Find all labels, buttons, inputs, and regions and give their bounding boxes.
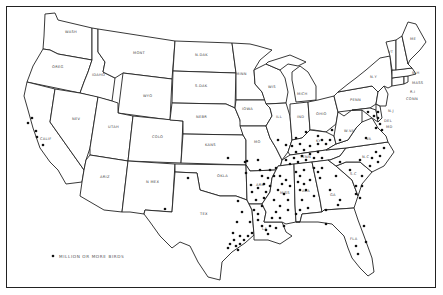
state-new-york: [338, 56, 392, 92]
label-me: ME: [410, 37, 416, 41]
label-sdak: S.DAK: [195, 84, 208, 88]
label-mont: MONT: [133, 51, 146, 55]
label-del: DEL: [384, 119, 392, 123]
label-minn: MINN: [236, 72, 247, 76]
label-ind: IND: [297, 115, 304, 119]
state-south-dakota: [172, 71, 236, 108]
label-mo: MO: [254, 140, 261, 144]
label-colo: COLO: [152, 135, 163, 139]
state-kansas: [181, 134, 246, 165]
legend: MILLION OR MORE BIRDS: [52, 254, 125, 259]
label-ndak: N.DAK: [195, 53, 208, 57]
label-wis: WIS: [268, 85, 276, 89]
us-map: WASH OREG CALIF NEV IDAHO MONT WYO UTAH …: [0, 0, 443, 295]
label-ohio: OHIO: [316, 112, 327, 116]
legend-dot-icon: [52, 255, 55, 258]
label-wva: W.VA: [344, 129, 354, 133]
label-wyo: WYO: [143, 94, 152, 98]
state-north-dakota: [173, 41, 236, 73]
label-vt: VT: [388, 50, 394, 54]
label-ga: GA: [330, 193, 336, 197]
label-iowa: IOWA: [242, 107, 253, 111]
state-outlines: [24, 13, 426, 280]
legend-label: MILLION OR MORE BIRDS: [59, 254, 124, 259]
label-tex: TEX: [199, 212, 208, 216]
label-conn: CONN: [406, 97, 418, 101]
label-ariz: ARIZ: [100, 175, 110, 179]
label-md: MD: [386, 125, 392, 129]
label-ny: N.Y: [370, 75, 377, 79]
label-idaho: IDAHO: [92, 73, 105, 77]
label-ri: R.I: [410, 90, 415, 94]
label-mass: MASS: [412, 81, 424, 85]
label-nev: NEV: [72, 117, 81, 121]
label-calif: CALIF: [40, 137, 52, 141]
state-new-mexico: [122, 161, 175, 214]
label-pa: PENN: [350, 98, 361, 102]
label-fla: FLA: [350, 237, 358, 241]
label-okla: OKLA: [217, 174, 228, 178]
label-kans: KANS: [205, 143, 216, 147]
state-arizona: [80, 155, 128, 212]
label-nh: N.H: [412, 71, 419, 75]
label-nebr: NEBR: [196, 115, 207, 119]
state-florida: [296, 208, 374, 276]
label-mich: MICH: [297, 92, 308, 96]
label-wash: WASH: [65, 30, 77, 34]
label-sc: S.C: [350, 172, 357, 176]
label-ky: KY: [316, 139, 322, 143]
label-nmex: N MEX: [146, 180, 159, 184]
label-nj: N.J: [388, 109, 394, 113]
label-nc: N.C: [362, 155, 369, 159]
state-colorado: [128, 116, 183, 163]
state-rhode-island: [404, 76, 408, 84]
label-ill: ILL: [276, 115, 282, 119]
label-oreg: OREG: [52, 65, 64, 69]
label-utah: UTAH: [108, 125, 119, 129]
